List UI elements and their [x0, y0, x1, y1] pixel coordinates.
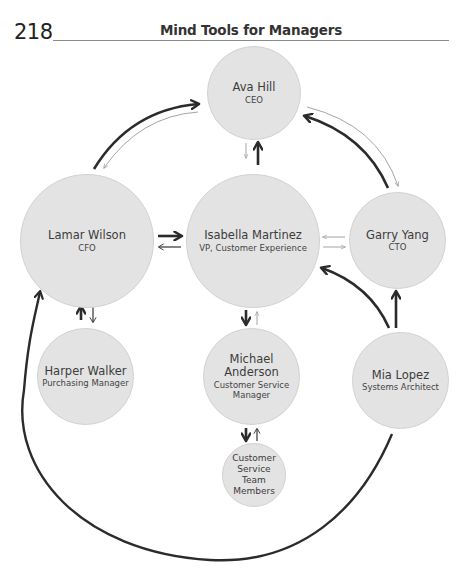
node-customer-service-team: Customer Service Team Members: [222, 443, 286, 507]
node-role: Systems Architect: [362, 382, 439, 392]
node-name-line: Service: [237, 464, 270, 475]
node-mia-lopez: Mia Lopez Systems Architect: [352, 332, 449, 429]
node-name: Michael Anderson: [204, 353, 299, 379]
node-role: Customer Service: [214, 380, 289, 390]
node-harper-walker: Harper Walker Purchasing Manager: [37, 328, 134, 425]
node-role: CEO: [245, 95, 263, 105]
node-name: Mia Lopez: [372, 369, 429, 382]
figure-caption-truncated: [16, 573, 396, 577]
node-garry-yang: Garry Yang CTO: [349, 192, 446, 289]
node-name: Garry Yang: [366, 229, 429, 242]
node-ava-hill: Ava Hill CEO: [207, 46, 301, 140]
node-name: Ava Hill: [233, 81, 276, 94]
arrow-ava-to-garry: [307, 107, 398, 186]
node-michael-anderson: Michael Anderson Customer Service Manage…: [203, 328, 300, 425]
node-name: Isabella Martinez: [204, 229, 302, 242]
node-name-line: Team: [242, 475, 266, 486]
node-name: Lamar Wilson: [48, 229, 126, 242]
node-role: CFO: [78, 243, 96, 253]
node-lamar-wilson: Lamar Wilson CFO: [20, 174, 154, 308]
node-role: Manager: [233, 390, 270, 400]
arrow-garry-to-ava: [305, 116, 388, 188]
node-name-line: Members: [233, 486, 275, 497]
node-role: Purchasing Manager: [42, 378, 128, 388]
node-role: CTO: [389, 242, 407, 252]
node-name-line: Customer: [232, 453, 276, 464]
node-isabella-martinez: Isabella Martinez VP, Customer Experienc…: [186, 174, 320, 308]
node-name: Harper Walker: [44, 365, 126, 378]
node-role: VP, Customer Experience: [199, 243, 307, 253]
